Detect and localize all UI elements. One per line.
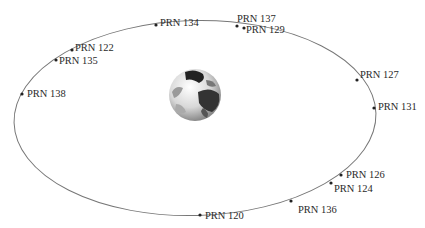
satellite-label-prn122: PRN 122	[75, 43, 114, 54]
satellite-label-prn134: PRN 134	[160, 18, 199, 29]
satellite-label-prn131: PRN 131	[378, 102, 417, 113]
satellite-marker-prn138	[20, 92, 23, 95]
satellite-label-prn135: PRN 135	[59, 56, 98, 67]
satellite-label-prn129: PRN 129	[246, 25, 285, 36]
satellite-marker-prn122	[70, 48, 73, 51]
satellite-label-prn136: PRN 136	[298, 205, 337, 216]
satellite-marker-prn134	[154, 23, 157, 26]
satellite-label-prn138: PRN 138	[27, 89, 66, 100]
satellite-marker-prn135	[54, 58, 57, 61]
orbit-diagram: PRN 134PRN 137PRN 129PRN 122PRN 135PRN 1…	[0, 0, 425, 228]
satellite-label-prn127: PRN 127	[360, 70, 399, 81]
satellite-label-prn137: PRN 137	[237, 14, 276, 25]
satellite-marker-prn126	[339, 173, 342, 176]
satellite-marker-prn120	[198, 213, 201, 216]
satellite-marker-prn137	[235, 24, 238, 27]
satellite-marker-prn131	[372, 106, 375, 109]
satellite-marker-prn127	[355, 78, 358, 81]
satellite-label-prn126: PRN 126	[346, 170, 385, 181]
satellite-marker-prn136	[289, 199, 292, 202]
satellite-label-prn124: PRN 124	[334, 184, 373, 195]
satellite-label-prn120: PRN 120	[205, 211, 244, 222]
satellite-marker-prn124	[329, 181, 332, 184]
earth-globe-icon	[169, 69, 221, 121]
